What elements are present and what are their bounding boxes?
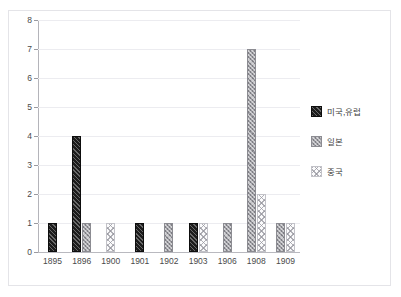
- x-tick-label-1909: 1909: [276, 256, 295, 266]
- bar-jp-1909: [276, 223, 285, 252]
- legend-label-jp: 일본: [327, 135, 343, 147]
- gridline-0: 0: [38, 252, 300, 253]
- bar-group-1906: [213, 20, 242, 252]
- y-tick-label-7: 7: [27, 44, 32, 54]
- bar-jp-1896: [82, 223, 91, 252]
- bar-cn-1908: [257, 194, 266, 252]
- chart-legend: 미국,유럽 일본 중국: [311, 106, 391, 196]
- y-tick-label-8: 8: [27, 15, 32, 25]
- y-tick-label-4: 4: [27, 131, 32, 141]
- bar-us-1901: [135, 223, 144, 252]
- x-tick-label-1895: 1895: [43, 256, 62, 266]
- legend-label-cn: 중국: [327, 165, 343, 177]
- bar-group-1903: [184, 20, 213, 252]
- y-tick-mark-0: [34, 252, 38, 253]
- legend-swatch-cn-icon: [311, 166, 322, 177]
- y-tick-label-0: 0: [27, 247, 32, 257]
- bar-cn-1903: [199, 223, 208, 252]
- legend-item-us: 미국,유럽: [311, 106, 391, 116]
- bar-jp-1908: [247, 49, 256, 252]
- bar-jp-1906: [223, 223, 232, 252]
- bar-group-1908: [242, 20, 271, 252]
- bar-group-1901: [125, 20, 154, 252]
- x-tick-label-1900: 1900: [101, 256, 120, 266]
- legend-swatch-us-icon: [311, 106, 322, 117]
- legend-label-us: 미국,유럽: [327, 105, 361, 117]
- x-tick-label-1906: 1906: [218, 256, 237, 266]
- y-tick-label-3: 3: [27, 160, 32, 170]
- bar-us-1896: [72, 136, 81, 252]
- bars-layer: [38, 20, 300, 252]
- x-tick-label-1902: 1902: [160, 256, 179, 266]
- bar-group-1909: [271, 20, 300, 252]
- y-tick-label-2: 2: [27, 189, 32, 199]
- bar-group-1902: [154, 20, 183, 252]
- bar-group-1896: [67, 20, 96, 252]
- bar-us-1895: [48, 223, 57, 252]
- x-tick-label-1896: 1896: [72, 256, 91, 266]
- y-tick-label-6: 6: [27, 73, 32, 83]
- legend-item-cn: 중국: [311, 166, 391, 176]
- legend-item-jp: 일본: [311, 136, 391, 146]
- bar-cn-1900: [106, 223, 115, 252]
- x-tick-label-1908: 1908: [247, 256, 266, 266]
- chart-title: [0, 0, 401, 1]
- bar-group-1895: [38, 20, 67, 252]
- legend-swatch-jp-icon: [311, 136, 322, 147]
- y-tick-label-5: 5: [27, 102, 32, 112]
- y-tick-label-1: 1: [27, 218, 32, 228]
- bar-us-1903: [189, 223, 198, 252]
- x-tick-label-1901: 1901: [130, 256, 149, 266]
- bar-group-1900: [96, 20, 125, 252]
- x-tick-label-1903: 1903: [189, 256, 208, 266]
- plot-area: 876543210: [38, 20, 300, 252]
- bar-jp-1902: [164, 223, 173, 252]
- bar-cn-1909: [286, 223, 295, 252]
- bar-chart-figure: 876543210 189518961900190119021903190619…: [0, 0, 401, 297]
- x-axis-labels: 189518961900190119021903190619081909: [38, 256, 300, 272]
